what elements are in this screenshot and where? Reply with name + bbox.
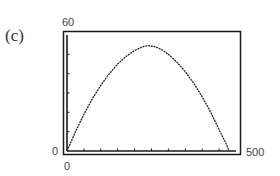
axes — [67, 35, 236, 151]
data-curve — [67, 46, 229, 151]
outer-frame — [64, 32, 241, 155]
chart-svg — [0, 0, 280, 176]
